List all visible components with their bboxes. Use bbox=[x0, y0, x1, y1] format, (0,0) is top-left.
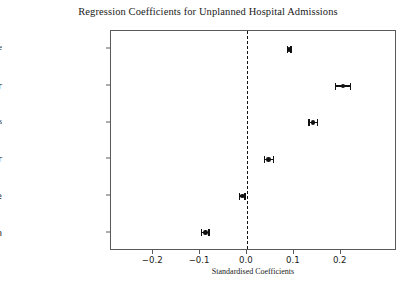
y-tick-label: Ex Smoker bbox=[0, 153, 2, 164]
ci-cap-low bbox=[308, 119, 309, 126]
coefficient-row bbox=[111, 80, 395, 92]
coefficient-row bbox=[111, 190, 395, 202]
y-tick-mark bbox=[106, 158, 110, 159]
zero-reference-line bbox=[247, 31, 248, 249]
coefficient-marker bbox=[203, 230, 208, 235]
chart-title: Regression Coefficients for Unplanned Ho… bbox=[0, 6, 416, 17]
x-tick-label: −0.1 bbox=[189, 255, 210, 265]
y-tick-label: Age bbox=[0, 44, 2, 52]
x-tick-label: 0.1 bbox=[286, 255, 300, 265]
x-tick-mark bbox=[246, 250, 247, 254]
ci-cap-high bbox=[350, 83, 351, 90]
coefficient-marker bbox=[266, 157, 271, 162]
y-tick-label: Female bbox=[0, 190, 2, 201]
coefficient-marker bbox=[287, 47, 292, 52]
y-tick-mark bbox=[106, 231, 110, 232]
x-tick-mark bbox=[152, 250, 153, 254]
coefficient-marker bbox=[240, 194, 245, 199]
regression-coefficient-plot: Regression Coefficients for Unplanned Ho… bbox=[0, 0, 416, 284]
plot-area bbox=[110, 30, 396, 250]
coefficient-row bbox=[111, 153, 395, 165]
y-tick-mark bbox=[106, 48, 110, 49]
y-tick-mark bbox=[106, 85, 110, 86]
coefficient-row bbox=[111, 43, 395, 55]
y-tick-label: Smoker bbox=[0, 80, 2, 91]
y-tick-label: GP Management Plan bbox=[0, 226, 2, 237]
coefficient-marker bbox=[341, 84, 346, 89]
x-tick-mark bbox=[340, 250, 341, 254]
ci-cap-high bbox=[208, 229, 209, 236]
x-tick-mark bbox=[199, 250, 200, 254]
x-tick-label: −0.2 bbox=[142, 255, 163, 265]
ci-cap-low bbox=[335, 83, 336, 90]
coefficient-row bbox=[111, 227, 395, 239]
y-tick-mark bbox=[106, 121, 110, 122]
x-tick-label: 0.0 bbox=[239, 255, 253, 265]
coefficient-row bbox=[111, 117, 395, 129]
ci-cap-low bbox=[201, 229, 202, 236]
ci-cap-high bbox=[273, 156, 274, 163]
ci-cap-high bbox=[317, 119, 318, 126]
ci-cap-low bbox=[264, 156, 265, 163]
ci-cap-high bbox=[244, 193, 245, 200]
y-tick-label: No Smoking Status bbox=[0, 118, 2, 126]
x-tick-label: 0.2 bbox=[333, 255, 347, 265]
y-tick-mark bbox=[106, 195, 110, 196]
x-axis-label: Standardised Coefficients bbox=[110, 267, 396, 276]
x-tick-mark bbox=[293, 250, 294, 254]
coefficient-marker bbox=[311, 120, 316, 125]
